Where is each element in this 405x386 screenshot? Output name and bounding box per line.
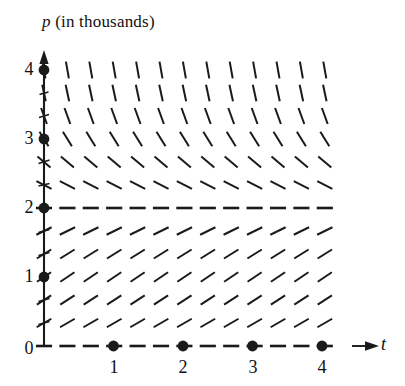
slope-mark bbox=[271, 250, 285, 259]
slope-mark bbox=[178, 157, 191, 168]
slope-mark bbox=[201, 157, 214, 168]
slope-mark bbox=[177, 227, 192, 234]
slope-mark bbox=[154, 295, 168, 304]
slope-mark bbox=[107, 250, 121, 259]
slope-mark bbox=[154, 272, 168, 282]
slope-mark bbox=[271, 295, 285, 304]
slope-mark bbox=[107, 319, 122, 328]
slope-mark bbox=[135, 108, 141, 124]
slope-mark bbox=[130, 319, 145, 328]
slope-mark bbox=[277, 62, 280, 79]
slope-mark bbox=[228, 108, 234, 124]
slope-mark bbox=[320, 132, 329, 146]
slope-mark bbox=[253, 62, 256, 79]
slope-mark bbox=[83, 181, 98, 189]
slope-mark bbox=[318, 295, 332, 304]
slope-mark bbox=[206, 85, 210, 102]
slope-mark bbox=[275, 108, 281, 124]
slope-mark bbox=[177, 181, 192, 189]
slope-mark bbox=[177, 319, 192, 328]
slope-mark bbox=[112, 85, 116, 102]
slope-mark bbox=[247, 227, 262, 234]
slope-mark bbox=[294, 319, 309, 328]
slope-mark bbox=[153, 227, 168, 234]
slope-mark bbox=[64, 108, 70, 124]
slope-mark bbox=[88, 108, 94, 124]
slope-mark bbox=[294, 272, 308, 282]
lattice-point bbox=[247, 341, 258, 352]
slope-mark bbox=[84, 272, 98, 282]
slope-mark bbox=[270, 181, 285, 189]
slope-mark bbox=[153, 181, 168, 189]
slope-mark bbox=[177, 295, 191, 304]
slope-mark bbox=[201, 250, 215, 259]
slope-mark bbox=[298, 108, 304, 124]
slope-mark bbox=[274, 132, 283, 146]
slope-field-plot bbox=[0, 0, 405, 386]
slope-mark bbox=[294, 181, 309, 189]
slope-mark bbox=[200, 319, 215, 328]
slope-mark bbox=[229, 85, 233, 102]
p-axis-arrowhead bbox=[39, 50, 48, 64]
slope-mark bbox=[318, 157, 331, 168]
slope-mark bbox=[61, 157, 74, 168]
slope-mark bbox=[113, 62, 116, 79]
slope-mark bbox=[271, 272, 285, 282]
slope-mark bbox=[201, 272, 215, 282]
slope-mark bbox=[322, 108, 328, 124]
lattice-point bbox=[317, 341, 328, 352]
slope-mark bbox=[200, 227, 215, 234]
slope-mark bbox=[200, 181, 215, 189]
slope-mark bbox=[297, 132, 306, 146]
slope-mark bbox=[317, 319, 332, 328]
slope-mark bbox=[247, 295, 261, 304]
slope-mark bbox=[294, 250, 308, 259]
slope-mark bbox=[160, 62, 163, 79]
slope-mark bbox=[203, 132, 212, 146]
slope-mark bbox=[247, 250, 261, 259]
lattice-point bbox=[39, 203, 50, 214]
slope-mark bbox=[158, 108, 164, 124]
slope-mark bbox=[206, 62, 209, 79]
slope-mark bbox=[271, 157, 284, 168]
slope-mark bbox=[318, 250, 332, 259]
slope-mark bbox=[323, 85, 327, 102]
slope-mark bbox=[271, 319, 286, 328]
slope-mark bbox=[224, 319, 239, 328]
slope-mark bbox=[136, 85, 140, 102]
slope-mark bbox=[84, 157, 97, 168]
slope-mark bbox=[133, 132, 142, 146]
slope-mark bbox=[177, 272, 191, 282]
slope-mark bbox=[183, 85, 187, 102]
slope-mark-layer bbox=[36, 62, 333, 346]
slope-mark bbox=[107, 272, 121, 282]
slope-mark bbox=[183, 62, 186, 79]
slope-mark bbox=[317, 181, 332, 189]
slope-mark bbox=[248, 272, 262, 282]
slope-mark bbox=[60, 227, 75, 234]
slope-mark bbox=[130, 250, 144, 259]
slope-mark bbox=[252, 108, 258, 124]
slope-mark bbox=[107, 181, 122, 189]
slope-mark bbox=[177, 250, 191, 259]
slope-mark bbox=[224, 272, 238, 282]
slope-mark bbox=[66, 85, 70, 102]
slope-mark bbox=[294, 227, 309, 234]
slope-mark bbox=[130, 227, 145, 234]
lattice-point bbox=[39, 65, 50, 76]
slope-mark bbox=[253, 85, 257, 102]
slope-mark bbox=[224, 250, 238, 259]
lattice-point bbox=[108, 341, 119, 352]
slope-mark bbox=[108, 157, 121, 168]
slope-mark bbox=[250, 132, 259, 146]
slope-mark bbox=[63, 132, 72, 146]
slope-mark bbox=[154, 319, 169, 328]
slope-mark bbox=[107, 295, 121, 304]
slope-mark bbox=[180, 132, 189, 146]
slope-mark bbox=[300, 85, 304, 102]
slope-mark bbox=[224, 181, 239, 189]
slope-mark bbox=[323, 62, 326, 79]
slope-mark bbox=[317, 227, 332, 234]
lattice-point bbox=[178, 341, 189, 352]
slope-mark bbox=[111, 108, 117, 124]
